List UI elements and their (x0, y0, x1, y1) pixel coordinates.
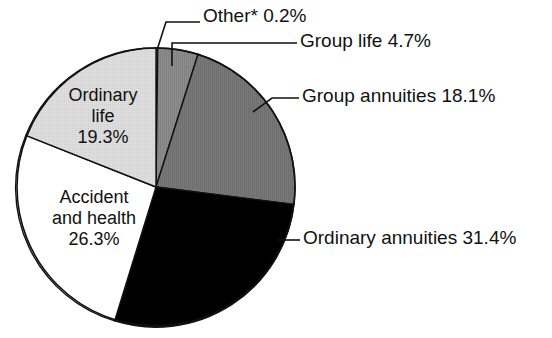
pie-chart: Other* 0.2% Group life 4.7% Group annuit… (0, 0, 552, 338)
slice-label-accident-and-health: Accident and health 26.3% (28, 187, 160, 250)
slice-label-accident-and-health-line2: and health (28, 208, 160, 229)
slice-label-ordinary-annuities: Ordinary annuities 31.4% (303, 227, 516, 248)
slice-label-other: Other* 0.2% (203, 5, 307, 26)
slice-label-accident-and-health-line1: Accident (28, 187, 160, 208)
slice-label-group-annuities: Group annuities 18.1% (302, 85, 495, 106)
leader-line-other (157, 22, 200, 50)
slice-label-ordinary-life-value: 19.3% (52, 127, 154, 148)
slice-label-accident-and-health-value: 26.3% (28, 229, 160, 250)
slice-label-ordinary-life-line2: life (52, 106, 154, 127)
slice-label-ordinary-life: Ordinary life 19.3% (52, 85, 154, 148)
pie-chart-canvas (0, 0, 552, 338)
slice-label-ordinary-life-line1: Ordinary (52, 85, 154, 106)
slice-label-group-life: Group life 4.7% (300, 30, 431, 51)
